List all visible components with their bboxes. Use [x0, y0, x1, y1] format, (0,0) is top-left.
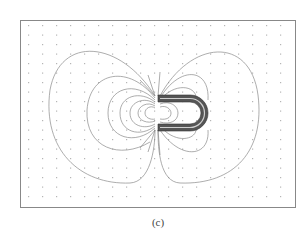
field-line-diagram	[0, 0, 308, 242]
plot-frame	[21, 21, 296, 208]
figure-caption: (c)	[0, 216, 308, 228]
